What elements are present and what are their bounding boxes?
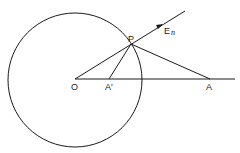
label-a-prime: A′ <box>105 82 113 92</box>
label-e: E <box>164 26 170 36</box>
line-p-a <box>131 44 210 79</box>
label-e-subscript: n <box>171 28 175 37</box>
diagram-canvas: O A′ A P E n <box>0 0 240 153</box>
label-o: O <box>71 82 78 92</box>
line-a-prime-p <box>109 44 131 79</box>
label-p: P <box>128 34 134 44</box>
label-a: A <box>206 82 212 92</box>
circle <box>8 13 142 147</box>
